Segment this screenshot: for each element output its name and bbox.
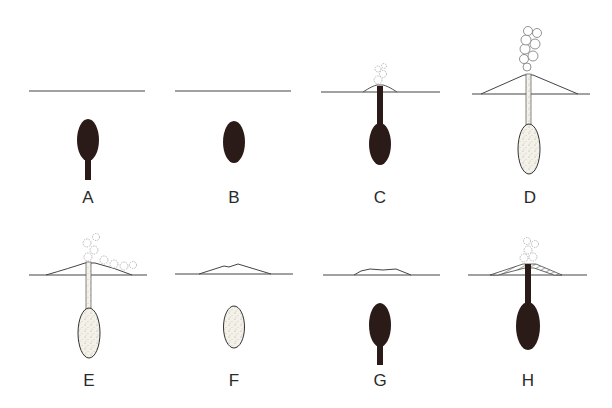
panel-g: G — [323, 269, 440, 390]
steam-plume — [520, 238, 539, 263]
panel-c: C — [321, 64, 440, 208]
panel-label: A — [82, 188, 94, 207]
magma-chamber — [516, 302, 540, 350]
solidified-conduit — [526, 74, 531, 126]
solidified-chamber — [78, 308, 100, 358]
panel-d: D — [472, 27, 590, 208]
panel-label: G — [373, 371, 386, 390]
magma-chamber — [369, 123, 391, 165]
steam-plume — [520, 27, 542, 72]
magma-chamber — [77, 119, 99, 161]
solidified-conduit — [86, 262, 91, 310]
eroded-mound — [199, 264, 271, 274]
magma-conduit — [85, 158, 91, 180]
steam-plume — [374, 64, 387, 85]
panel-label: H — [522, 371, 534, 390]
panel-label: E — [83, 371, 94, 390]
solidified-chamber — [224, 306, 245, 348]
panel-label: B — [228, 188, 239, 207]
volcano-stages-figure: A B C — [0, 0, 612, 408]
panel-label: C — [374, 188, 386, 207]
panel-label: D — [524, 188, 536, 207]
panel-f: F — [175, 264, 293, 390]
magma-chamber — [223, 121, 245, 163]
panel-label: F — [229, 371, 239, 390]
panel-a: A — [29, 91, 145, 207]
panel-h: H — [468, 238, 587, 391]
magma-chamber — [369, 303, 391, 347]
magma-conduit — [377, 343, 383, 365]
panel-b: B — [175, 91, 291, 207]
solidified-chamber — [518, 124, 540, 174]
panel-e: E — [29, 234, 147, 391]
low-mound — [354, 269, 411, 275]
